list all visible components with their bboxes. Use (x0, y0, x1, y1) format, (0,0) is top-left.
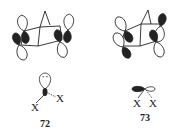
compound-label-73: 73 (140, 112, 150, 123)
compound-label-72: 72 (40, 118, 50, 129)
lone-pair-dots: ·· (41, 70, 48, 82)
substituent-x-right-1: X (133, 97, 141, 109)
p-orbitals-right (111, 13, 167, 60)
orbital-diagram: ·· X X 72 X X 73 (0, 0, 182, 132)
substituent-x-right-2: X (149, 97, 157, 109)
substituent-x-left-2: X (56, 92, 64, 104)
substituent-x-left-1: X (31, 101, 39, 113)
p-orbitals-left (11, 14, 74, 62)
